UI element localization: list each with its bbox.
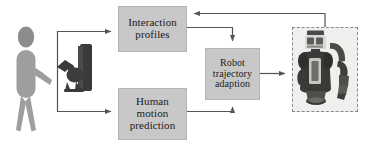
node-robot-trajectory-adaption-label: Robot trajectory adaption (206, 58, 259, 90)
mobile-dual-arm-robot-photo (294, 29, 356, 110)
edge-human-motion-prediction-to-robot-trajectory (187, 107, 233, 112)
node-human-motion-prediction[interactable]: Human motion prediction (118, 88, 187, 140)
node-human-motion-prediction-label: Human motion prediction (119, 96, 186, 132)
handheld-robot-manipulator (56, 42, 98, 97)
node-interaction-profiles[interactable]: Interaction profiles (118, 6, 187, 52)
diagram-canvas: Interaction profiles Human motion predic… (0, 0, 377, 145)
node-interaction-profiles-label: Interaction profiles (119, 17, 186, 41)
edge-robot-feedback-to-interaction-profiles (194, 14, 325, 28)
node-robot-trajectory-adaption[interactable]: Robot trajectory adaption (205, 48, 260, 100)
human-operator-figure (8, 26, 60, 138)
edge-interaction-profiles-to-robot-trajectory (187, 28, 233, 42)
